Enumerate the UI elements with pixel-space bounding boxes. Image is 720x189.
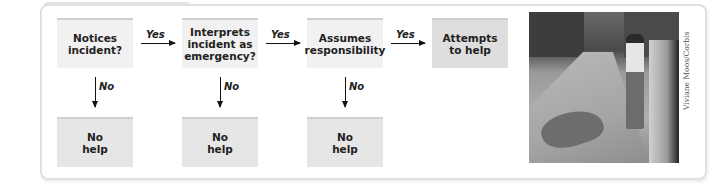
step-interprets-emergency: Interprets incident as emergency? [182,18,258,68]
no-arrow-2 [220,77,221,107]
passerby-figure [626,34,644,129]
step-attempts-to-help: Attempts to help [432,18,508,68]
yes-arrow-2 [266,43,300,44]
photo-credit: Viviane Moos/Corbis [682,32,691,110]
yes-arrow-3 [391,43,425,44]
no-arrow-3 [345,77,346,107]
outcome-no-help-2: No help [182,117,258,167]
yes-label-2: Yes [271,29,290,40]
outcome-no-help-1: No help [57,117,133,167]
no-label-2: No [224,81,239,92]
step-assumes-responsibility: Assumes responsibility [307,18,383,68]
building-left [529,12,584,57]
street-scene-photo [529,12,679,163]
outcome-no-help-3: No help [307,117,383,167]
no-label-3: No [349,81,364,92]
step-notices-incident: Notices incident? [57,18,133,68]
yes-label-3: Yes [396,29,415,40]
yes-label-1: Yes [146,29,165,40]
no-arrow-1 [95,77,96,107]
parked-car [649,40,679,163]
no-label-1: No [99,81,114,92]
yes-arrow-1 [141,43,175,44]
